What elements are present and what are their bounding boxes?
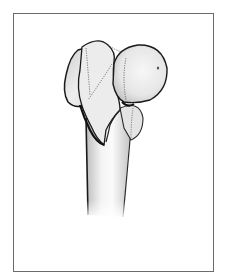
femur-illustration <box>0 0 226 280</box>
femoral-head <box>113 45 167 106</box>
